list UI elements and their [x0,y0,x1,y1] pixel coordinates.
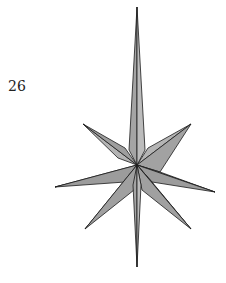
ray-bottom [133,165,137,267]
star-figure [0,0,226,283]
ray-top [129,7,137,165]
